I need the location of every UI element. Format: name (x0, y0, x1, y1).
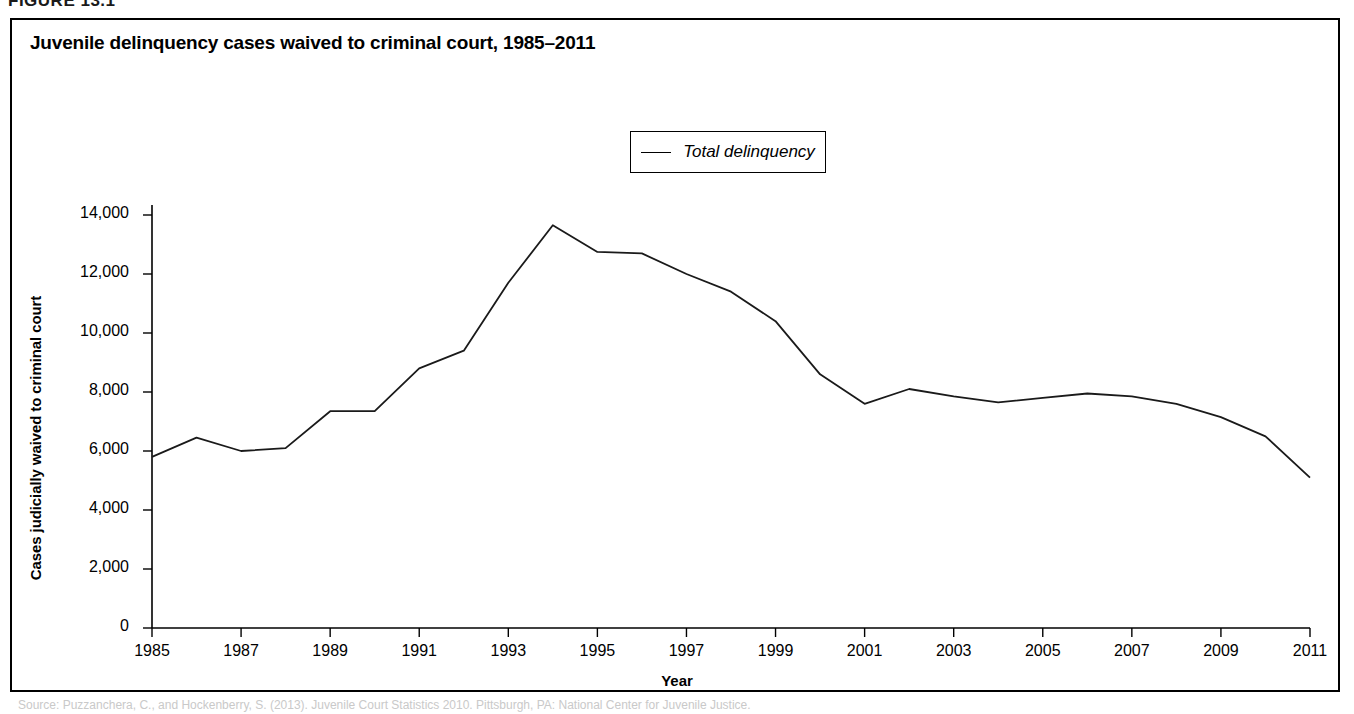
legend-entry-label: Total delinquency (683, 142, 815, 162)
x-axis-tick-label: 2007 (1092, 642, 1172, 660)
x-axis-tick-label: 2011 (1270, 642, 1350, 660)
chart-title: Juvenile delinquency cases waived to cri… (30, 32, 595, 54)
x-axis-tick-label: 1987 (201, 642, 281, 660)
x-axis-tick-label: 1995 (557, 642, 637, 660)
x-axis-tick-label: 1999 (736, 642, 816, 660)
x-axis-tick-label: 2005 (1003, 642, 1083, 660)
x-axis-tick-label: 1993 (468, 642, 548, 660)
figure-source-caption: Source: Puzzanchera, C., and Hockenberry… (18, 698, 1318, 712)
y-axis-tick-label: 10,000 (49, 322, 129, 340)
figure-label: FIGURE 13.1 (8, 0, 116, 9)
x-axis-tick-label: 2003 (914, 642, 994, 660)
legend-line-swatch-icon (641, 152, 671, 153)
y-axis-tick-label: 2,000 (49, 558, 129, 576)
x-axis-tick-label: 1997 (646, 642, 726, 660)
x-axis-tick-label: 1989 (290, 642, 370, 660)
y-axis-tick-label: 14,000 (49, 204, 129, 222)
x-axis-tick-label: 1985 (112, 642, 192, 660)
y-axis-title: Cases judicially waived to criminal cour… (27, 238, 44, 638)
y-axis-tick-label: 4,000 (49, 499, 129, 517)
chart-legend: Total delinquency (630, 131, 826, 173)
y-axis-tick-label: 0 (49, 617, 129, 635)
x-axis-tick-label: 2001 (825, 642, 905, 660)
x-axis-title: Year (0, 672, 1354, 689)
figure-frame (10, 18, 1340, 692)
y-axis-tick-label: 8,000 (49, 381, 129, 399)
x-axis-tick-label: 2009 (1181, 642, 1261, 660)
y-axis-tick-label: 6,000 (49, 440, 129, 458)
y-axis-tick-label: 12,000 (49, 263, 129, 281)
legend-entry-total-delinquency: Total delinquency (631, 132, 825, 172)
x-axis-tick-label: 1991 (379, 642, 459, 660)
